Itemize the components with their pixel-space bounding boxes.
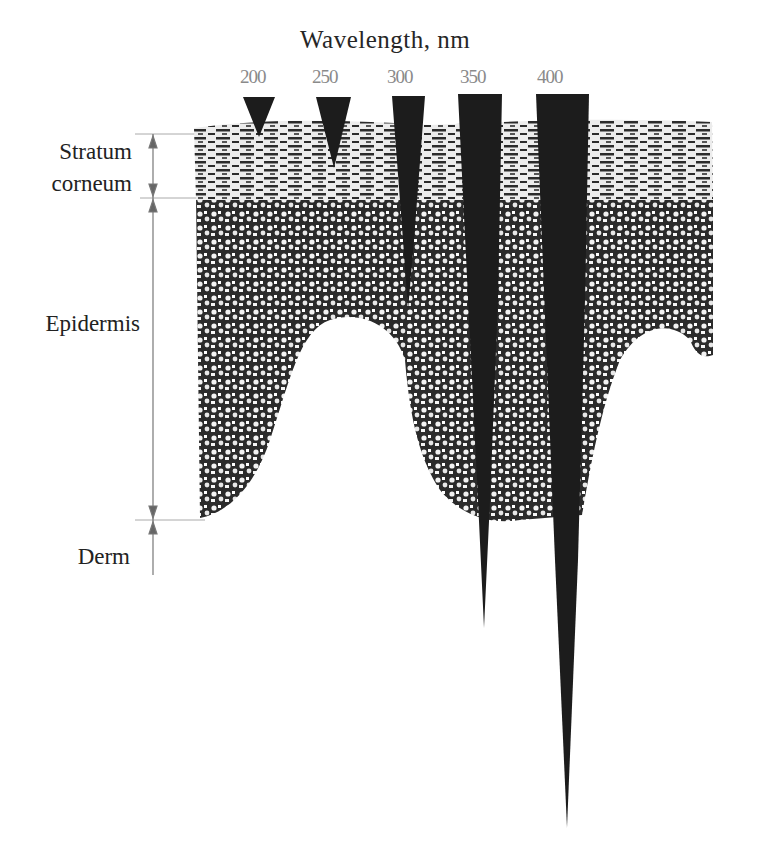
layer-boundary-guides xyxy=(135,134,205,520)
stratum-corneum-layer xyxy=(194,120,713,200)
thickness-dimension-arrows xyxy=(149,134,157,575)
epidermis-layer xyxy=(196,195,713,521)
skin-penetration-illustration xyxy=(0,0,757,857)
